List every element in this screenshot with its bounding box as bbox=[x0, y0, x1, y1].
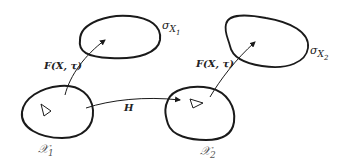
connector-label-h: H bbox=[124, 102, 133, 113]
domain-x1-label: 𝒳1 bbox=[38, 142, 54, 158]
map-label-left: F(X, τ) bbox=[44, 60, 82, 71]
sigma-x1-label: σX1 bbox=[162, 19, 180, 37]
triangle-icon-left bbox=[41, 104, 51, 116]
sigma-x2-label: σX2 bbox=[310, 44, 328, 62]
triangle-icon-right bbox=[190, 99, 203, 108]
diagram-canvas: F(X, τ) F(X, τ) H σX1 σX2 𝒳1 𝒳2 bbox=[0, 0, 341, 167]
region-x2 bbox=[165, 87, 234, 140]
arrow-f-right bbox=[210, 42, 255, 97]
domain-x2-label: 𝒳2 bbox=[200, 144, 216, 160]
region-x1 bbox=[22, 86, 93, 138]
map-label-right: F(X, τ) bbox=[196, 58, 234, 69]
